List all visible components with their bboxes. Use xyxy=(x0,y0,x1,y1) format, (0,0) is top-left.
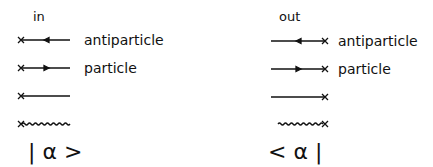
in-photon-wavy-line xyxy=(18,121,70,127)
in-header: in xyxy=(33,10,45,24)
out-photon-wavy-line xyxy=(278,121,328,127)
in-antiparticle-line xyxy=(18,37,70,43)
in-state-ket: | α > xyxy=(28,141,82,163)
out-header: out xyxy=(279,10,300,24)
out-particle-line xyxy=(271,66,328,72)
in-scalar-line xyxy=(18,93,70,99)
out-state-bra: < α | xyxy=(268,141,322,163)
out-antiparticle-label: antiparticle xyxy=(338,34,418,48)
out-antiparticle-line xyxy=(271,38,328,44)
in-particle-line xyxy=(18,65,70,71)
in-antiparticle-label: antiparticle xyxy=(84,33,164,47)
in-particle-label: particle xyxy=(84,61,137,75)
out-scalar-line xyxy=(271,94,328,100)
out-particle-label: particle xyxy=(338,62,391,76)
